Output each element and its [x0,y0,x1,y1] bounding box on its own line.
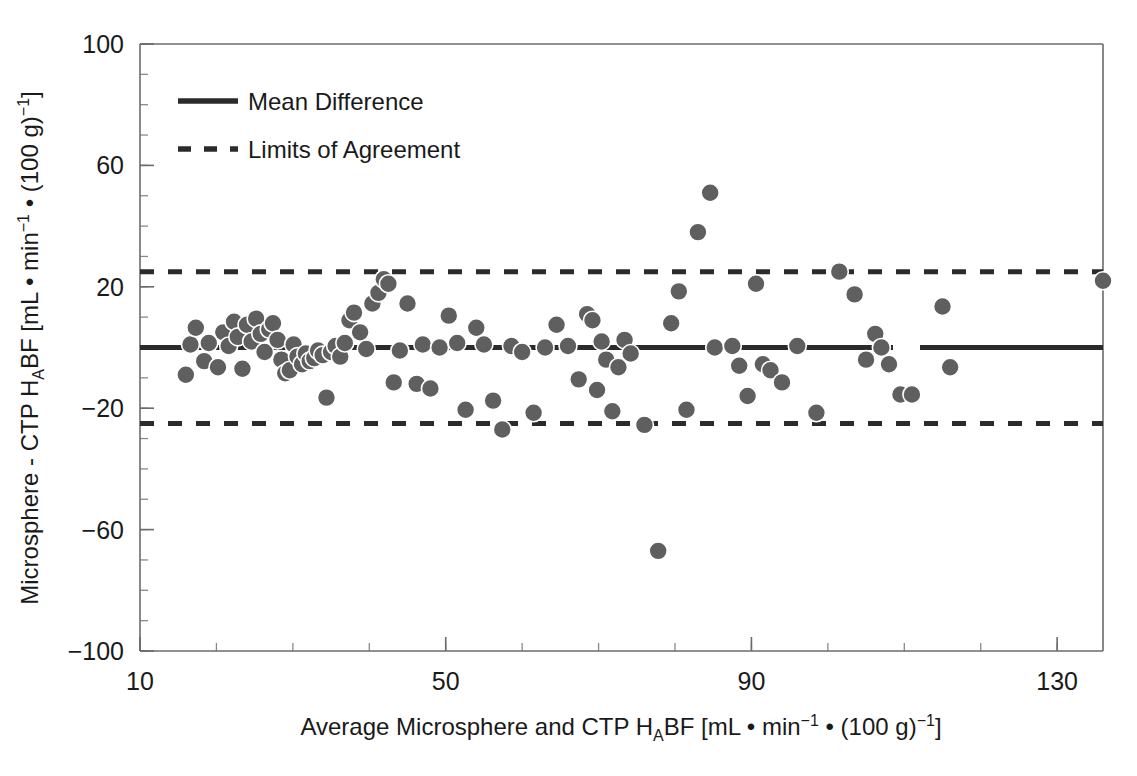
data-point [484,392,502,410]
legend-label-limits-of-agreement: Limits of Agreement [248,136,460,163]
data-point [493,420,511,438]
data-point [525,404,543,422]
data-point [345,304,363,322]
data-point [457,401,475,419]
data-point [677,401,695,419]
data-point [830,263,848,281]
data-point [773,373,791,391]
y-tick-label: 20 [96,273,124,301]
data-point [233,360,251,378]
data-point [903,386,921,404]
data-point [336,334,354,352]
data-points [177,184,1112,560]
x-tick-label: 50 [432,667,460,695]
data-point [357,340,375,358]
data-point [706,339,724,357]
x-tick-label: 90 [738,667,766,695]
data-point [475,335,493,353]
data-point [723,337,741,355]
data-point [593,332,611,350]
x-axis-title: Average Microsphere and CTP HABF [mL • m… [300,712,941,744]
data-point [181,335,199,353]
data-point [399,294,417,312]
data-point [846,285,864,303]
data-point [788,337,806,355]
data-point [662,314,680,332]
data-point [689,223,707,241]
data-point [622,345,640,363]
x-tick-label: 130 [1036,667,1078,695]
y-tick-label: 60 [96,151,124,179]
data-point [880,355,898,373]
data-point [467,319,485,337]
data-point [559,337,577,355]
data-point [385,373,403,391]
data-point [1094,272,1112,290]
legend-label-mean-difference: Mean Difference [248,88,424,115]
data-point [448,334,466,352]
data-point [934,298,952,316]
data-point [583,311,601,329]
data-point [391,342,409,360]
x-axis-tick-labels: 105090130 [126,667,1078,695]
data-point [440,307,458,325]
data-point [177,366,195,384]
data-point [351,323,369,341]
data-point [414,335,432,353]
data-point [670,282,688,300]
data-point [857,351,875,369]
data-point [431,339,449,357]
data-point [807,404,825,422]
chart-legend: Mean Difference Limits of Agreement [178,88,460,163]
data-point [513,343,531,361]
data-point [872,339,890,357]
data-point [269,331,287,349]
data-point [701,184,719,202]
data-point [536,339,554,357]
data-point [570,370,588,388]
data-point [730,357,748,375]
bland-altman-figure: 105090130 1006020−20−60−100 Mean Differe… [0,0,1137,776]
data-point [317,389,335,407]
x-tick-label: 10 [126,667,154,695]
data-point [588,381,606,399]
data-point [747,275,765,293]
y-axis-title: Microsphere - CTP HABF [mL • min−1 • (10… [15,91,47,604]
data-point [209,358,227,376]
data-point [635,416,653,434]
data-point [649,542,667,560]
data-point [421,379,439,397]
scatter-plot-canvas: 105090130 1006020−20−60−100 Mean Differe… [0,0,1137,776]
data-point [264,314,282,332]
data-point [603,402,621,420]
data-point [941,358,959,376]
y-tick-label: 100 [82,30,124,58]
y-tick-label: −60 [82,516,124,544]
y-tick-label: −20 [82,394,124,422]
y-tick-label: −100 [68,637,124,665]
data-point [739,387,757,405]
y-axis-tick-labels: 1006020−20−60−100 [68,30,124,665]
data-point [187,319,205,337]
data-point [379,275,397,293]
data-point [548,316,566,334]
